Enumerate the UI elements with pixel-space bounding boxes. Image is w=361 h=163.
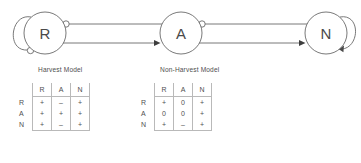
column-header-r: R	[155, 83, 174, 97]
table-row: N + – +	[140, 119, 212, 131]
node-a: A	[160, 12, 202, 54]
column-header-n: N	[71, 83, 90, 97]
cell-a-a: 0	[174, 108, 193, 119]
row-header-n: N	[140, 119, 155, 131]
cell-n-a: –	[52, 119, 71, 131]
cell-n-r: +	[33, 119, 52, 131]
cell-r-r: +	[33, 97, 52, 109]
figure-panel: R A N Harvest Model R A N	[0, 0, 361, 163]
table-header-row: R A N	[140, 83, 212, 97]
cell-a-n: +	[193, 108, 212, 119]
column-header-a: A	[174, 83, 193, 97]
harvest-model-block: Harvest Model R A N R + – +	[18, 66, 90, 131]
table-header-row: R A N	[18, 83, 90, 97]
row-header-n: N	[18, 119, 33, 131]
matrix-corner-cell	[140, 83, 155, 97]
table-row: A 0 0 +	[140, 108, 212, 119]
cell-r-a: 0	[174, 97, 193, 109]
row-header-a: A	[18, 108, 33, 119]
node-label-a: A	[176, 25, 186, 42]
row-header-r: R	[140, 97, 155, 109]
cell-a-r: 0	[155, 108, 174, 119]
nonharvest-model-matrix: R A N R + 0 + A 0 0	[140, 83, 212, 131]
arrowhead-into-n	[299, 40, 306, 46]
arrowhead-into-a	[154, 40, 161, 46]
row-header-r: R	[18, 97, 33, 109]
node-r: R	[24, 12, 66, 54]
cell-n-a: –	[174, 119, 193, 131]
row-header-a: A	[140, 108, 155, 119]
cell-n-r: +	[155, 119, 174, 131]
table-row: N + – +	[18, 119, 90, 131]
harvest-model-matrix: R A N R + – + A + +	[18, 83, 90, 131]
nonharvest-model-block: Non-Harvest Model R A N R + 0 +	[140, 66, 219, 131]
nonharvest-model-caption: Non-Harvest Model	[160, 66, 219, 73]
cell-a-a: +	[52, 108, 71, 119]
harvest-model-caption: Harvest Model	[38, 66, 90, 73]
cell-a-n: +	[71, 108, 90, 119]
cell-a-r: +	[33, 108, 52, 119]
cell-r-n: +	[71, 97, 90, 109]
cell-n-n: +	[71, 119, 90, 131]
column-header-r: R	[33, 83, 52, 97]
table-row: A + + +	[18, 108, 90, 119]
edge-pair-r-a	[63, 21, 162, 46]
table-row: R + 0 +	[140, 97, 212, 109]
node-label-r: R	[40, 25, 51, 42]
column-header-a: A	[52, 83, 71, 97]
column-header-n: N	[193, 83, 212, 97]
edge-pair-a-n	[199, 21, 308, 46]
cell-r-r: +	[155, 97, 174, 109]
signed-digraph: R A N	[0, 0, 361, 66]
matrix-corner-cell	[18, 83, 33, 97]
node-label-n: N	[321, 25, 332, 42]
matrices-layer: Harvest Model R A N R + – +	[0, 66, 361, 163]
cell-n-n: +	[193, 119, 212, 131]
node-n: N	[305, 12, 347, 54]
table-row: R + – +	[18, 97, 90, 109]
cell-r-n: +	[193, 97, 212, 109]
cell-r-a: –	[52, 97, 71, 109]
